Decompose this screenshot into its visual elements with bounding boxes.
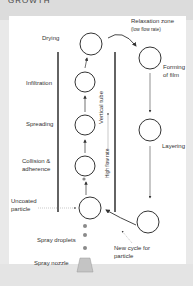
particle-new-cycle bbox=[137, 211, 159, 233]
particle-forming-film bbox=[139, 47, 161, 69]
label-relaxation: Relaxation zone bbox=[131, 18, 174, 26]
label-spray-nozzle: Spray nozzle bbox=[34, 260, 69, 268]
label-new-cycle: New cycle for particle bbox=[114, 245, 150, 260]
label-infiltration: Infiltration bbox=[26, 80, 52, 88]
label-high-flow-rate: High flow rate bbox=[104, 149, 112, 178]
spray-nozzle-icon bbox=[77, 258, 93, 272]
label-spray-droplets: Spray droplets bbox=[37, 237, 76, 245]
droplet bbox=[83, 246, 87, 250]
droplet bbox=[83, 224, 87, 228]
arrow-to-relaxation bbox=[108, 34, 136, 46]
label-drying: Drying bbox=[42, 35, 59, 43]
new-cycle-pointer bbox=[122, 231, 132, 243]
particle-layering bbox=[139, 119, 161, 141]
particle-infiltration bbox=[75, 72, 95, 92]
arrow-new-cycle bbox=[106, 210, 136, 225]
arrow-up bbox=[85, 58, 87, 68]
label-spreading: Spreading bbox=[26, 121, 53, 129]
label-relaxation-sub: (low flow rate) bbox=[131, 26, 161, 34]
particle-drying bbox=[80, 33, 102, 55]
label-forming-film: Forming of film bbox=[163, 64, 185, 79]
particle-collision bbox=[75, 156, 95, 176]
particle-uncoated bbox=[79, 197, 101, 219]
particle-spreading bbox=[75, 115, 95, 135]
label-layering: Layering bbox=[162, 143, 185, 151]
label-vertical-tube: Vertical tube bbox=[98, 91, 106, 124]
droplet bbox=[83, 233, 87, 237]
label-collision: Collision & adherence bbox=[22, 158, 50, 173]
label-uncoated: Uncoated particle bbox=[11, 198, 37, 213]
droplet bbox=[82, 177, 85, 180]
